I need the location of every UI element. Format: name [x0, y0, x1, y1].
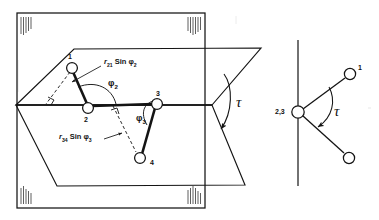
- right-angle-mark-atom1: [48, 97, 54, 105]
- atom-4-label: 4: [150, 159, 154, 166]
- scan-artifacts: [18, 16, 371, 108]
- phi3-label: φ3: [136, 114, 146, 125]
- r34-sin-phi3-label: r34 Sin φ3: [59, 133, 92, 143]
- atom-1-circle: [67, 63, 78, 74]
- newman-bond-4: [303, 116, 344, 153]
- sin-operator: Sin: [70, 132, 82, 141]
- lower-plane: [16, 105, 245, 186]
- phi2-label: φ2: [108, 79, 118, 90]
- sin-operator: Sin: [115, 57, 127, 66]
- outer-wall-frame: [17, 13, 205, 208]
- atom-3-label: 3: [156, 90, 160, 97]
- atom-2-label: 2: [84, 116, 88, 123]
- wall-hatch-marks: [21, 17, 201, 204]
- r34-subscript: 34: [62, 137, 68, 143]
- tau-label-right: τ: [334, 104, 339, 119]
- atom-circles-left: [67, 63, 163, 164]
- atom-1-newman-circle: [344, 68, 355, 79]
- phi2-sub: 2: [114, 83, 117, 90]
- phi3-sub: 3: [142, 118, 145, 125]
- atom-1-label: 1: [68, 53, 72, 60]
- atom-4-newman-circle: [343, 152, 354, 163]
- phi3-subscript: 3: [89, 137, 92, 143]
- torsion-angle-diagram: [0, 0, 379, 220]
- torsion-arc-left: [221, 74, 230, 129]
- tau-label-left: τ: [236, 95, 241, 110]
- bond-2-3: [92, 104, 153, 106]
- newman-atom-circles: [292, 68, 356, 163]
- r21-subscript: 21: [107, 62, 113, 68]
- projection-dashed-atom1: [46, 72, 70, 104]
- atom-4-circle: [135, 153, 146, 164]
- phi2-subscript: 2: [134, 62, 137, 68]
- atom-2-circle: [83, 103, 94, 114]
- right-angle-mark-atom4: [111, 108, 119, 114]
- atom-1-newman-label: 1: [358, 64, 362, 71]
- atom-23-circle: [292, 106, 304, 118]
- leader-r34: [104, 133, 122, 139]
- upper-plane: [16, 48, 261, 105]
- projection-dashed-atom4: [113, 106, 136, 152]
- atom-3-circle: [152, 99, 163, 110]
- r21-sin-phi2-label: r21 Sin φ2: [104, 58, 137, 68]
- atom-23-label: 2,3: [275, 108, 285, 115]
